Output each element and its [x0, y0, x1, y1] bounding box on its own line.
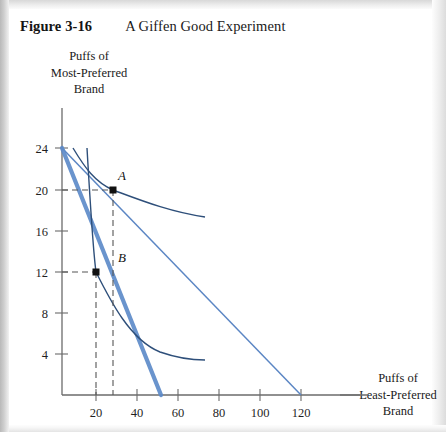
y-tick-label-16: 16 [36, 225, 49, 239]
data-point-a-marker [110, 187, 117, 194]
figure-page: Figure 3-16A Giffen Good Experiment Puff… [0, 0, 446, 432]
x-tick-label-40: 40 [131, 406, 144, 420]
y-tick-label-8: 8 [42, 307, 48, 321]
indifference-curve-upper [73, 148, 205, 217]
y-tick-label-4: 4 [42, 348, 49, 362]
data-point-b-label: B [118, 250, 126, 265]
y-tick-label-24: 24 [36, 142, 49, 156]
data-point-a-label: A [117, 168, 126, 183]
y-tick-label-12: 12 [36, 266, 49, 280]
x-tick-label-80: 80 [213, 406, 226, 420]
x-tick-label-60: 60 [172, 406, 185, 420]
x-tick-label-100: 100 [251, 406, 270, 420]
y-tick-label-20: 20 [36, 184, 49, 198]
x-tick-label-120: 120 [292, 406, 311, 420]
data-point-b-marker [93, 269, 100, 276]
x-tick-label-20: 20 [90, 406, 103, 420]
giffen-good-chart: 24 20 16 12 8 4 20 40 60 80 100 120 [0, 0, 446, 432]
